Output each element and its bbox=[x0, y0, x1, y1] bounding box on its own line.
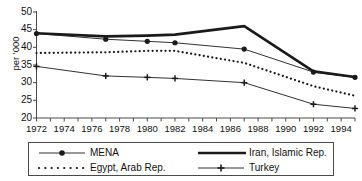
chart-legend: MENAIran, Islamic Rep.Egypt, Arab Rep.Tu… bbox=[28, 142, 334, 176]
legend-item[interactable]: Egypt, Arab Rep. bbox=[35, 160, 166, 175]
legend-label: Egypt, Arab Rep. bbox=[90, 162, 166, 173]
legend-item[interactable]: Turkey bbox=[194, 160, 279, 175]
data-point-marker bbox=[145, 39, 150, 44]
line-chart: per '000 50454035302520 1972197419761978… bbox=[0, 0, 362, 181]
series-line bbox=[37, 34, 356, 78]
legend-item[interactable]: MENA bbox=[35, 145, 119, 160]
legend-swatch-line-with-circle-marker bbox=[35, 146, 89, 160]
legend-swatch-dotted-line bbox=[35, 161, 89, 175]
legend-swatch-line-with-plus-marker bbox=[194, 161, 248, 175]
legend-swatch-thick-line bbox=[194, 146, 248, 160]
data-point-marker bbox=[172, 40, 177, 45]
legend-label: Turkey bbox=[249, 162, 279, 173]
series-line bbox=[37, 66, 356, 108]
legend-item[interactable]: Iran, Islamic Rep. bbox=[194, 145, 327, 160]
legend-label: Iran, Islamic Rep. bbox=[249, 147, 327, 158]
legend-label: MENA bbox=[90, 147, 119, 158]
legend-marker-circle bbox=[59, 150, 65, 156]
data-point-marker bbox=[242, 47, 247, 52]
